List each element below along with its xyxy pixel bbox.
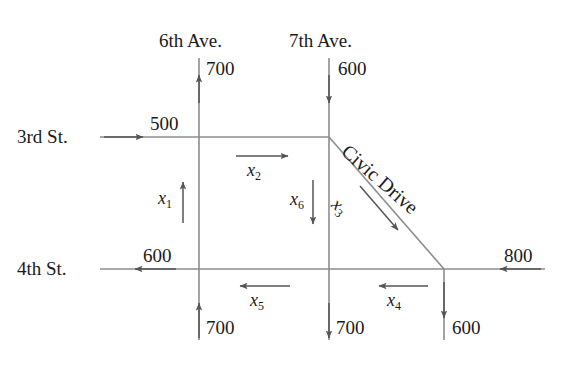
third-st-label: 3rd St. — [17, 126, 68, 148]
flow-sixth-ave-top: 700 — [206, 58, 235, 80]
variable-x5: x5 — [250, 290, 264, 311]
variable-x2-base: x — [247, 160, 255, 180]
flow-seventh-ave-bottom: 700 — [336, 317, 365, 339]
seventh-ave-label: 7th Ave. — [289, 30, 352, 52]
variable-x6-sub: 6 — [298, 198, 304, 212]
variable-x2: x2 — [247, 160, 261, 181]
sixth-ave-label: 6th Ave. — [159, 30, 222, 52]
variable-x5-sub: 5 — [258, 299, 264, 313]
flow-civic-bottom: 600 — [452, 317, 481, 339]
variable-x2-sub: 2 — [255, 169, 261, 183]
variable-x4: x4 — [387, 290, 401, 311]
variable-x6-base: x — [290, 189, 298, 209]
traffic-flow-diagram: 6th Ave. 7th Ave. 3rd St. 4th St. Civic … — [0, 0, 570, 376]
variable-x6: x6 — [290, 189, 304, 210]
flow-third-st-left: 500 — [150, 113, 179, 135]
flow-seventh-ave-top: 600 — [338, 58, 367, 80]
variable-x1: x1 — [158, 188, 172, 209]
fourth-st-label: 4th St. — [17, 258, 67, 280]
variable-x4-base: x — [387, 290, 395, 310]
flow-fourth-st-left: 600 — [143, 245, 172, 267]
variable-x4-sub: 4 — [395, 299, 401, 313]
variable-x5-base: x — [250, 290, 258, 310]
variable-x1-sub: 1 — [166, 197, 172, 211]
flow-fourth-st-right: 800 — [504, 245, 533, 267]
network-graphics — [0, 0, 570, 376]
flow-sixth-ave-bottom: 700 — [206, 317, 235, 339]
variable-x1-base: x — [158, 188, 166, 208]
